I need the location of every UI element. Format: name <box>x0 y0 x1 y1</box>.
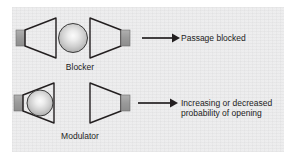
diagram-artwork <box>0 0 287 159</box>
modulator-diagram <box>14 83 178 123</box>
blocker-left-cone <box>25 18 56 58</box>
figure-root: Blocker Modulator Passage blocked Increa… <box>0 0 287 159</box>
blocker-arrow-icon <box>142 34 180 43</box>
modulator-arrow-icon <box>138 99 178 108</box>
modulator-left-stub <box>14 95 23 111</box>
modulator-label: Modulator <box>45 131 115 142</box>
blocker-right-cone <box>90 18 121 58</box>
modulator-right-cone <box>90 83 121 123</box>
modulator-sphere <box>27 90 53 116</box>
blocker-left-stub <box>16 30 25 46</box>
blocker-outcome-text: Passage blocked <box>181 33 246 44</box>
modulator-outcome-text-line1: Increasing or decreased <box>181 98 272 109</box>
modulator-right-stub <box>121 95 130 111</box>
blocker-right-stub <box>121 30 130 46</box>
modulator-outcome-text-line2: probability of opening <box>181 108 262 119</box>
blocker-sphere <box>59 24 88 53</box>
blocker-diagram <box>16 18 180 58</box>
blocker-label: Blocker <box>50 62 110 73</box>
